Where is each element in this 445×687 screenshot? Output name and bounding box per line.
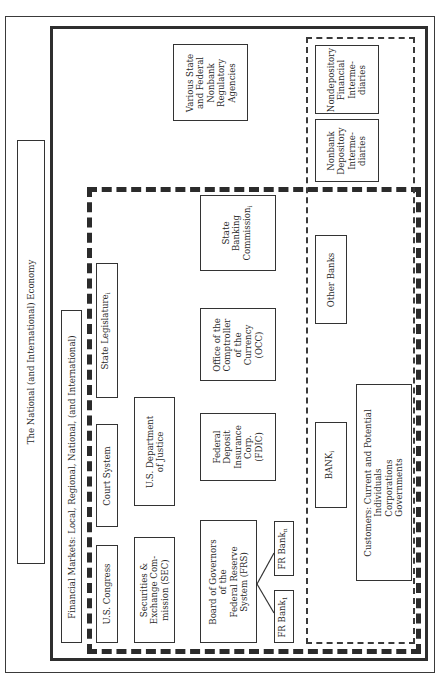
nonbank-depository-line: diaries xyxy=(357,127,367,174)
nonbank-depository-line: Interme- xyxy=(347,127,357,174)
nonbank-depository-line: Depository xyxy=(337,127,347,174)
subscript: 1 xyxy=(281,596,288,600)
fr-bank-n-box: FR Bankn xyxy=(274,521,294,576)
customers-line: Individuals xyxy=(374,409,384,556)
other-banks-label: Other Banks xyxy=(326,252,336,307)
subscript: n xyxy=(281,528,288,532)
other-banks-box: Other Banks xyxy=(315,235,347,324)
customers-line: Governments xyxy=(394,409,404,556)
nonbank-depository-line: Nonbank xyxy=(326,127,336,174)
bank-i-label: BANK xyxy=(324,453,334,479)
bank-i-box: BANKi xyxy=(315,422,347,508)
nondepository-line: Financial xyxy=(337,47,347,111)
customers-line: Corporations xyxy=(384,409,394,556)
subscript: i xyxy=(328,451,335,453)
nondepository-box: Nondepository Financial Interme- diaries xyxy=(315,45,379,114)
nondepository-line: Interme- xyxy=(347,47,357,111)
nondepository-line: diaries xyxy=(357,47,367,111)
customers-box: Customers: Current and Potential Individ… xyxy=(356,384,412,581)
nondepository-line: Nondepository xyxy=(326,47,336,111)
customers-line: Customers: Current and Potential xyxy=(363,409,373,556)
nonbank-depository-box: Nonbank Depository Interme- diaries xyxy=(315,119,379,182)
fr-bank-1-box: FR Bank1 xyxy=(274,590,294,643)
fr-bank-1-label: FR Bank xyxy=(277,600,287,637)
fr-bank-n-label: FR Bank xyxy=(277,532,287,569)
